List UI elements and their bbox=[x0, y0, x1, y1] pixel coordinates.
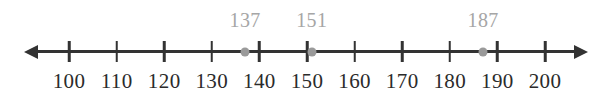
tick-mark bbox=[163, 41, 166, 62]
point-value-label: 151 bbox=[296, 8, 327, 32]
tick-mark bbox=[496, 41, 499, 62]
tick-label: 130 bbox=[195, 68, 228, 94]
point-value-label: 187 bbox=[467, 8, 498, 32]
axis-arrow-right-icon bbox=[574, 45, 588, 59]
tick-label: 150 bbox=[291, 68, 324, 94]
tick-mark bbox=[449, 41, 452, 62]
tick-label: 180 bbox=[433, 68, 466, 94]
tick-mark bbox=[115, 41, 118, 62]
tick-mark bbox=[258, 41, 261, 62]
tick-mark bbox=[68, 41, 71, 62]
tick-label: 140 bbox=[243, 68, 276, 94]
tick-mark bbox=[544, 41, 547, 62]
tick-mark bbox=[401, 41, 404, 62]
point-dot bbox=[241, 47, 250, 56]
tick-mark bbox=[211, 41, 214, 62]
tick-mark bbox=[353, 41, 356, 62]
tick-label: 120 bbox=[148, 68, 181, 94]
tick-label: 190 bbox=[481, 68, 514, 94]
axis-arrow-left-icon bbox=[24, 45, 38, 59]
point-value-label: 137 bbox=[229, 8, 260, 32]
point-dot bbox=[479, 47, 488, 56]
number-line-figure: 100110120130140150160170180190200 137151… bbox=[0, 0, 610, 101]
tick-label: 200 bbox=[529, 68, 562, 94]
tick-label: 100 bbox=[53, 68, 86, 94]
point-dot bbox=[307, 47, 316, 56]
tick-label: 170 bbox=[386, 68, 419, 94]
tick-label: 160 bbox=[338, 68, 371, 94]
tick-label: 110 bbox=[101, 68, 133, 94]
